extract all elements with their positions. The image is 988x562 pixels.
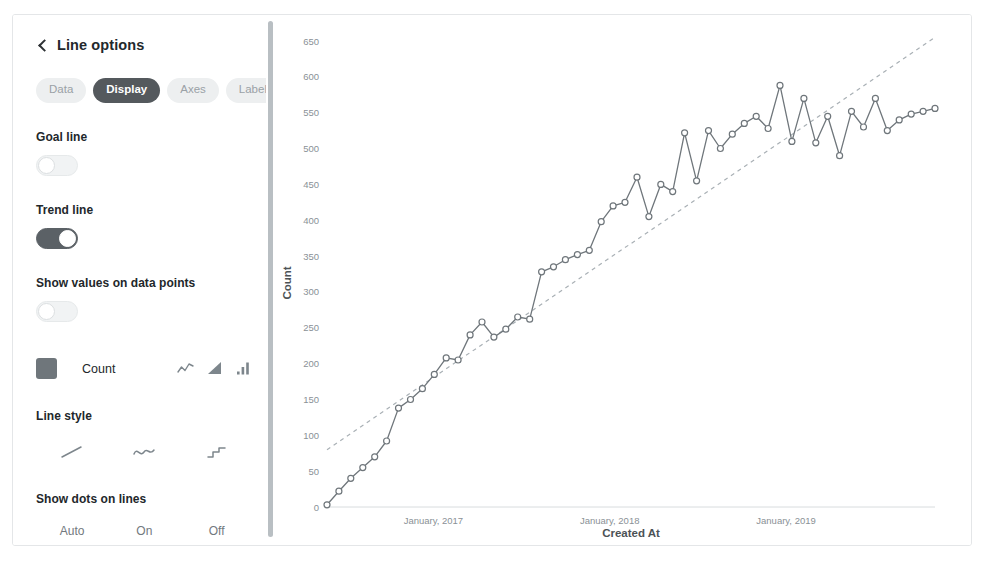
y-tick-label: 400 bbox=[303, 215, 319, 226]
data-point[interactable] bbox=[741, 120, 747, 126]
y-tick-label: 350 bbox=[303, 251, 319, 262]
page-title: Line options bbox=[57, 37, 144, 53]
data-point[interactable] bbox=[872, 95, 878, 101]
data-point[interactable] bbox=[491, 334, 497, 340]
data-point[interactable] bbox=[634, 174, 640, 180]
data-point[interactable] bbox=[419, 386, 425, 392]
data-point[interactable] bbox=[670, 189, 676, 195]
y-tick-label: 100 bbox=[303, 430, 319, 441]
y-tick-label: 50 bbox=[308, 466, 319, 477]
data-point[interactable] bbox=[479, 319, 485, 325]
data-point[interactable] bbox=[467, 332, 473, 338]
data-point[interactable] bbox=[861, 124, 867, 130]
data-point[interactable] bbox=[920, 108, 926, 114]
x-axis-title: Created At bbox=[602, 527, 660, 539]
trend-line bbox=[327, 37, 935, 449]
y-tick-label: 600 bbox=[303, 71, 319, 82]
tab-bar: Data Display Axes Labels bbox=[36, 78, 253, 103]
scrollbar-thumb[interactable] bbox=[268, 21, 273, 537]
line-chart[interactable]: 050100150200250300350400450500550600650 … bbox=[275, 15, 972, 545]
goal-line-toggle[interactable] bbox=[36, 155, 78, 176]
curve-line-icon[interactable] bbox=[108, 439, 180, 465]
area-chart-icon[interactable] bbox=[207, 361, 223, 376]
data-point[interactable] bbox=[884, 128, 890, 134]
tab-display[interactable]: Display bbox=[93, 78, 160, 103]
panel-scrollbar[interactable] bbox=[266, 15, 275, 545]
show-dots-option-auto[interactable]: Auto bbox=[36, 518, 108, 546]
series-color-swatch[interactable] bbox=[36, 358, 57, 379]
data-point[interactable] bbox=[598, 219, 604, 225]
data-point[interactable] bbox=[610, 203, 616, 209]
data-point[interactable] bbox=[849, 108, 855, 114]
tab-data[interactable]: Data bbox=[36, 78, 86, 103]
line-chart-icon[interactable] bbox=[177, 361, 194, 376]
line-style-label: Line style bbox=[36, 409, 253, 423]
y-tick-label: 200 bbox=[303, 358, 319, 369]
y-axis-ticks: 050100150200250300350400450500550600650 bbox=[303, 36, 319, 513]
data-point[interactable] bbox=[384, 438, 390, 444]
data-point[interactable] bbox=[896, 117, 902, 123]
data-point[interactable] bbox=[360, 465, 366, 471]
data-point[interactable] bbox=[408, 397, 414, 403]
data-point[interactable] bbox=[717, 146, 723, 152]
data-point[interactable] bbox=[396, 405, 402, 411]
data-point[interactable] bbox=[586, 247, 592, 253]
data-point[interactable] bbox=[706, 128, 712, 134]
linear-line-icon[interactable] bbox=[36, 439, 108, 465]
y-tick-label: 250 bbox=[303, 322, 319, 333]
data-point[interactable] bbox=[527, 316, 533, 322]
data-point[interactable] bbox=[455, 357, 461, 363]
data-point[interactable] bbox=[729, 131, 735, 137]
y-tick-label: 500 bbox=[303, 143, 319, 154]
data-point[interactable] bbox=[646, 214, 652, 220]
panel-header: Line options bbox=[37, 37, 253, 53]
step-line-icon[interactable] bbox=[181, 439, 253, 465]
data-point[interactable] bbox=[789, 138, 795, 144]
show-dots-option-on[interactable]: On bbox=[108, 518, 180, 546]
data-point[interactable] bbox=[622, 199, 628, 205]
data-point[interactable] bbox=[658, 181, 664, 187]
data-point[interactable] bbox=[431, 371, 437, 377]
trend-line-toggle[interactable] bbox=[36, 228, 78, 249]
x-tick-label: January, 2017 bbox=[404, 515, 464, 526]
y-tick-label: 300 bbox=[303, 286, 319, 297]
show-dots-option-off[interactable]: Off bbox=[181, 518, 253, 546]
data-point[interactable] bbox=[348, 475, 354, 481]
toggle-knob bbox=[59, 230, 76, 247]
data-point[interactable] bbox=[443, 355, 449, 361]
data-point[interactable] bbox=[539, 269, 545, 275]
data-point[interactable] bbox=[932, 105, 938, 111]
y-axis-title: Count bbox=[281, 266, 293, 299]
data-point[interactable] bbox=[551, 264, 557, 270]
data-point[interactable] bbox=[562, 257, 568, 263]
data-point[interactable] bbox=[574, 252, 580, 258]
data-point[interactable] bbox=[753, 113, 759, 119]
y-tick-label: 650 bbox=[303, 36, 319, 47]
data-markers bbox=[324, 82, 938, 507]
data-point[interactable] bbox=[515, 314, 521, 320]
data-point[interactable] bbox=[765, 126, 771, 132]
data-point[interactable] bbox=[777, 82, 783, 88]
data-point[interactable] bbox=[801, 95, 807, 101]
data-point[interactable] bbox=[694, 178, 700, 184]
data-point[interactable] bbox=[908, 111, 914, 117]
show-dots-segmented-control: Auto On Off bbox=[36, 518, 253, 546]
series-name-label: Count bbox=[82, 362, 177, 376]
x-tick-label: January, 2018 bbox=[580, 515, 640, 526]
series-row: Count bbox=[36, 356, 253, 382]
data-line bbox=[327, 85, 935, 504]
data-point[interactable] bbox=[813, 140, 819, 146]
data-point[interactable] bbox=[503, 326, 509, 332]
data-point[interactable] bbox=[372, 454, 378, 460]
bar-chart-icon[interactable] bbox=[236, 361, 251, 376]
show-values-toggle[interactable] bbox=[36, 301, 78, 322]
settings-panel: Line options Data Display Axes Labels Go… bbox=[13, 15, 275, 545]
data-point[interactable] bbox=[336, 488, 342, 494]
goal-line-label: Goal line bbox=[36, 130, 253, 144]
data-point[interactable] bbox=[837, 153, 843, 159]
data-point[interactable] bbox=[825, 113, 831, 119]
tab-axes[interactable]: Axes bbox=[167, 78, 219, 103]
data-point[interactable] bbox=[324, 502, 330, 508]
data-point[interactable] bbox=[682, 130, 688, 136]
chevron-left-icon[interactable] bbox=[37, 40, 48, 51]
